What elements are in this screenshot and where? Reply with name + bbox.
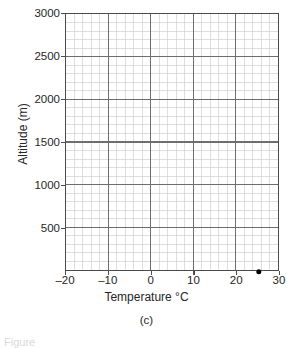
figure-footer-note: Figure [4, 336, 35, 348]
y-axis-tick-label: 3000 [12, 7, 60, 20]
plot-area [65, 13, 279, 271]
y-axis-tick [61, 13, 65, 14]
figure-caption: (c) [0, 314, 293, 326]
x-axis-tick-label: 30 [259, 274, 299, 287]
y-axis-tick-label: 500 [12, 222, 60, 235]
x-axis-tick-label: 10 [173, 274, 213, 287]
y-axis-tick [61, 142, 65, 143]
x-axis-tick-label: –20 [45, 274, 85, 287]
y-axis-tick-label: 2500 [12, 50, 60, 63]
y-axis-tick [61, 185, 65, 186]
y-axis-tick [61, 56, 65, 57]
y-axis-tick [61, 99, 65, 100]
x-axis-tick-label: –10 [88, 274, 128, 287]
y-axis-title: Altitude (m) [16, 64, 30, 204]
grid-lines [66, 14, 278, 270]
x-axis-title: Temperature °C [0, 290, 293, 304]
y-axis-tick [61, 228, 65, 229]
x-axis-tick-label: 0 [131, 274, 171, 287]
x-axis-tick-label: 20 [216, 274, 256, 287]
